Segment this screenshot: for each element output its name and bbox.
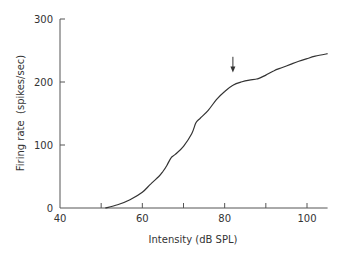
x-axis-label: Intensity (dB SPL) — [149, 234, 238, 245]
x-tick-label: 60 — [136, 213, 149, 224]
x-tick-label: 80 — [218, 213, 231, 224]
y-axis-label: Firing rate (spikes/sec) — [15, 55, 26, 171]
x-tick-label: 40 — [54, 213, 67, 224]
arrow-head-icon — [230, 67, 235, 73]
x-tick-label: 100 — [297, 213, 316, 224]
ticks — [60, 19, 307, 208]
data-line — [105, 54, 327, 208]
y-tick-label: 200 — [34, 77, 53, 88]
tick-labels: 0100200300406080100 — [34, 14, 317, 224]
chart: 0100200300406080100 Intensity (dB SPL) F… — [0, 0, 343, 258]
arrow-annotation — [230, 57, 235, 73]
axes — [60, 19, 328, 208]
y-tick-label: 0 — [47, 203, 53, 214]
y-tick-label: 100 — [34, 140, 53, 151]
y-tick-label: 300 — [34, 14, 53, 25]
